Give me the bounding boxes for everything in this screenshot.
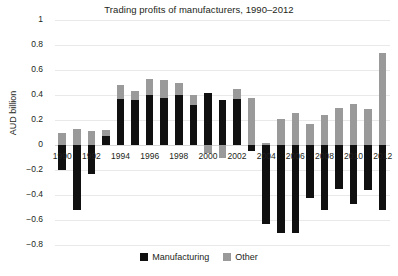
- bar-segment-manufacturing: [204, 93, 212, 146]
- bar-segment-other: [306, 124, 314, 145]
- bar-group[interactable]: [175, 20, 183, 245]
- x-axis-tick-label: 2006: [280, 152, 310, 161]
- y-axis-tick-label: 1: [3, 15, 43, 24]
- bar-group[interactable]: [262, 20, 270, 245]
- bar-group[interactable]: [335, 20, 343, 245]
- bar-segment-manufacturing: [175, 95, 183, 145]
- bar-segment-other: [379, 53, 387, 146]
- y-axis-tick-label: 0.8: [3, 40, 43, 49]
- bar-group[interactable]: [88, 20, 96, 245]
- bar-group[interactable]: [248, 20, 256, 245]
- bar-group[interactable]: [379, 20, 387, 245]
- bar-group[interactable]: [233, 20, 241, 245]
- bar-segment-other: [262, 143, 270, 146]
- bar-group[interactable]: [292, 20, 300, 245]
- bar-segment-other: [146, 79, 154, 95]
- x-axis-tick-label: 2002: [222, 152, 252, 161]
- bar-segment-other: [160, 80, 168, 98]
- x-axis-tick-label: 1992: [76, 152, 106, 161]
- legend-label: Other: [235, 252, 258, 262]
- bar-segment-manufacturing: [248, 145, 256, 151]
- bar-segment-manufacturing: [102, 136, 110, 145]
- bar-group[interactable]: [58, 20, 66, 245]
- x-axis-tick-label: 2004: [251, 152, 281, 161]
- bar-segment-manufacturing: [233, 99, 241, 145]
- y-axis-tick-label: −0.6: [3, 215, 43, 224]
- x-axis-tick-label: 2008: [309, 152, 339, 161]
- x-axis-tick-label: 1994: [106, 152, 136, 161]
- chart-container: Trading profits of manufacturers, 1990–2…: [0, 0, 398, 276]
- y-axis-tick-label: 0.4: [3, 90, 43, 99]
- bar-segment-other: [277, 119, 285, 145]
- bar-segment-manufacturing: [117, 99, 125, 145]
- bar-segment-other: [102, 130, 110, 136]
- bar-segment-other: [175, 83, 183, 96]
- bar-segment-other: [233, 89, 241, 99]
- bar-group[interactable]: [73, 20, 81, 245]
- y-axis-tick-label: −0.2: [3, 165, 43, 174]
- legend-item[interactable]: Manufacturing: [140, 252, 209, 262]
- legend-swatch-icon: [223, 253, 231, 261]
- bar-group[interactable]: [160, 20, 168, 245]
- bar-segment-other: [335, 108, 343, 146]
- legend-swatch-icon: [140, 253, 148, 261]
- bar-segment-other: [88, 131, 96, 145]
- bar-segment-manufacturing: [190, 105, 198, 145]
- chart-legend: ManufacturingOther: [0, 252, 398, 262]
- bar-group[interactable]: [204, 20, 212, 245]
- bar-group[interactable]: [277, 20, 285, 245]
- bar-group[interactable]: [102, 20, 110, 245]
- bar-group[interactable]: [219, 20, 227, 245]
- x-axis-tick-label: 2010: [339, 152, 369, 161]
- bar-group[interactable]: [117, 20, 125, 245]
- plot-area: 10.80.60.40.20−0.2−0.4−0.6−0.8 199019921…: [55, 20, 390, 245]
- chart-title: Trading profits of manufacturers, 1990–2…: [0, 4, 398, 16]
- bar-segment-other: [321, 115, 329, 145]
- y-axis-tick-label: −0.8: [3, 240, 43, 249]
- bar-segment-other: [73, 129, 81, 145]
- legend-label: Manufacturing: [152, 252, 209, 262]
- bar-segment-manufacturing: [219, 100, 227, 145]
- bar-segment-other: [131, 91, 139, 100]
- bar-segment-manufacturing: [160, 98, 168, 146]
- bar-segment-other: [117, 85, 125, 99]
- bar-group[interactable]: [321, 20, 329, 245]
- x-axis-tick-label: 1998: [164, 152, 194, 161]
- bar-group[interactable]: [146, 20, 154, 245]
- bar-segment-other: [58, 133, 66, 146]
- bar-segment-other: [292, 113, 300, 146]
- bar-group[interactable]: [350, 20, 358, 245]
- bar-segment-other: [248, 98, 256, 146]
- y-axis-tick-label: 0.6: [3, 65, 43, 74]
- y-axis-tick-label: 0.2: [3, 115, 43, 124]
- x-axis-tick-label: 1990: [47, 152, 77, 161]
- y-axis-tick-label: −0.4: [3, 190, 43, 199]
- bar-group[interactable]: [306, 20, 314, 245]
- bar-group[interactable]: [131, 20, 139, 245]
- legend-item[interactable]: Other: [223, 252, 258, 262]
- bar-segment-other: [190, 95, 198, 105]
- bar-segment-manufacturing: [131, 100, 139, 145]
- bar-group[interactable]: [190, 20, 198, 245]
- y-axis-tick-label: 0: [3, 140, 43, 149]
- x-axis-tick-label: 2012: [368, 152, 398, 161]
- bar-segment-other: [364, 109, 372, 145]
- x-axis-tick-label: 2000: [193, 152, 223, 161]
- bar-segment-manufacturing: [146, 95, 154, 145]
- bar-segment-other: [350, 104, 358, 145]
- x-axis-tick-label: 1996: [135, 152, 165, 161]
- bar-group[interactable]: [364, 20, 372, 245]
